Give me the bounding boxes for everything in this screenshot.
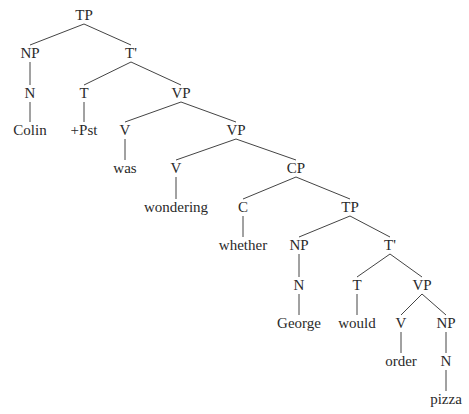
tree-node: wondering (144, 199, 209, 215)
tree-edge (243, 177, 296, 199)
tree-edge (181, 102, 236, 122)
tree-node: VP (171, 85, 190, 101)
tree-node: N (441, 353, 452, 369)
tree-edge (176, 139, 236, 160)
tree-node: N (294, 277, 305, 293)
tree-node: T' (384, 237, 396, 253)
tree-edge (390, 254, 422, 277)
tree-edge (236, 139, 296, 160)
tree-node: V (396, 315, 407, 331)
tree-node: +Pst (71, 122, 99, 138)
tree-node: NP (20, 45, 39, 61)
tree-node: T (79, 85, 88, 101)
tree-node: NP (436, 315, 455, 331)
tree-node: order (385, 353, 417, 369)
tree-edge (30, 24, 84, 45)
tree-node: George (277, 315, 321, 331)
tree-node: TP (75, 7, 93, 23)
tree-edge (131, 62, 181, 85)
tree-edge (84, 62, 131, 85)
tree-edge (296, 177, 350, 199)
tree-node: Colin (13, 122, 47, 138)
tree-node: V (171, 160, 182, 176)
tree-nodes: TPNPNColinT'T+PstVPVwasVPVwonderingCPCwh… (13, 7, 462, 407)
tree-edge (422, 294, 446, 315)
tree-edge (84, 24, 131, 45)
tree-node: N (25, 85, 36, 101)
tree-node: whether (219, 237, 267, 253)
tree-node: pizza (430, 391, 462, 407)
tree-node: VP (226, 122, 245, 138)
tree-node: was (113, 160, 136, 176)
tree-node: CP (287, 160, 305, 176)
tree-edge (401, 294, 422, 315)
tree-node: would (338, 315, 376, 331)
syntax-tree-diagram: TPNPNColinT'T+PstVPVwasVPVwonderingCPCwh… (0, 0, 469, 414)
tree-node: T (352, 277, 361, 293)
tree-node: NP (289, 237, 308, 253)
tree-edge (125, 102, 181, 122)
tree-node: TP (341, 199, 359, 215)
tree-node: T' (125, 45, 137, 61)
tree-node: V (120, 122, 131, 138)
tree-node: C (238, 199, 248, 215)
tree-edge (350, 216, 390, 237)
tree-edge (357, 254, 390, 277)
tree-node: VP (412, 277, 431, 293)
tree-edge (299, 216, 350, 237)
